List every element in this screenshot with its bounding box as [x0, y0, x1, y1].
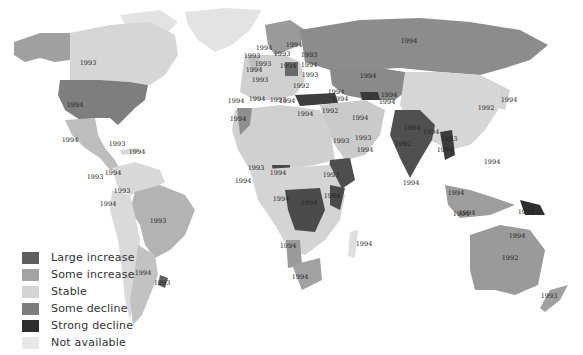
legend-item-large-increase: Large increase	[22, 249, 135, 266]
region-alaska	[14, 33, 70, 62]
year-label: 1993	[301, 51, 318, 59]
year-label: 1994	[280, 62, 297, 70]
legend-label: Not available	[51, 336, 126, 349]
legend-swatch	[22, 320, 39, 332]
year-label: 1994	[484, 158, 501, 166]
year-label: 1994	[501, 96, 518, 104]
legend-label: Strong decline	[51, 319, 133, 332]
year-label: 1994	[249, 95, 266, 103]
year-label: 1993	[244, 52, 261, 60]
region-russia	[300, 18, 548, 75]
year-label: 1994	[67, 101, 84, 109]
legend-swatch	[22, 252, 39, 264]
year-label: 1994	[357, 146, 374, 154]
legend-label: Large increase	[51, 251, 135, 264]
year-label: 1994	[292, 273, 309, 281]
year-label: 1994	[324, 192, 341, 200]
year-label: 1994	[379, 98, 396, 106]
year-label: 1993	[150, 217, 167, 225]
year-label: 1992	[322, 107, 339, 115]
year-label: 1994	[279, 97, 296, 105]
year-label: 1994	[518, 208, 535, 216]
year-label: 1994	[360, 72, 377, 80]
legend-item-some-decline: Some decline	[22, 300, 135, 317]
year-label: 1994	[423, 128, 440, 136]
year-label: 1994	[301, 61, 318, 69]
year-label: 1993	[87, 173, 104, 181]
legend-swatch	[22, 303, 39, 315]
region-uzbek	[360, 92, 380, 100]
year-label: 1994	[135, 269, 152, 277]
year-label: 1994	[509, 232, 526, 240]
year-label: 1993	[355, 134, 372, 142]
year-label: 1994	[228, 97, 245, 105]
year-label: 1994	[105, 169, 122, 177]
year-label: 1993	[333, 137, 350, 145]
year-label: 1994	[62, 136, 79, 144]
year-label: 1994	[297, 110, 314, 118]
year-label: 1994	[352, 114, 369, 122]
region-canada	[70, 22, 178, 85]
year-label: 1993	[441, 135, 458, 143]
legend-item-some-increase: Some increase	[22, 266, 135, 283]
year-label: 1994	[280, 242, 297, 250]
year-label: 1993	[274, 50, 291, 58]
year-label: 1993	[248, 164, 265, 172]
year-label: 1993	[154, 279, 171, 287]
year-label: 1993	[541, 292, 558, 300]
year-label: 1994	[403, 179, 420, 187]
legend-label: Stable	[51, 285, 87, 298]
year-label: 1993	[80, 59, 97, 67]
year-label: 1994	[459, 209, 476, 217]
year-label: 1992	[395, 140, 412, 148]
year-label: 1993	[252, 76, 269, 84]
legend-swatch	[22, 286, 39, 298]
legend-swatch	[22, 269, 39, 281]
year-label: 1994	[246, 66, 263, 74]
year-label: 1994	[332, 95, 349, 103]
year-label: 1993	[114, 187, 131, 195]
year-label: 1994	[401, 37, 418, 45]
year-label: 1994	[129, 148, 146, 156]
year-label: 1994	[448, 189, 465, 197]
year-label: 1994	[235, 177, 252, 185]
year-label: 1994	[270, 169, 287, 177]
year-label: 1993	[302, 71, 319, 79]
legend-label: Some increase	[51, 268, 135, 281]
year-label: 1994	[356, 240, 373, 248]
legend-item-not-available: Not available	[22, 334, 135, 351]
year-label: 1994	[230, 115, 247, 123]
legend: Large increase Some increase Stable Some…	[22, 249, 135, 351]
legend-item-strong-decline: Strong decline	[22, 317, 135, 334]
year-label: 1994	[256, 44, 273, 52]
year-label: 1994	[437, 146, 454, 154]
year-label: 1993	[109, 140, 126, 148]
year-label: 1994	[100, 200, 117, 208]
year-label: 1992	[293, 82, 310, 90]
legend-label: Some decline	[51, 302, 128, 315]
year-label: 1992	[502, 254, 519, 262]
region-greenland	[185, 8, 262, 52]
legend-swatch	[22, 337, 39, 349]
year-label: 1994	[273, 195, 290, 203]
year-label: 1992	[478, 104, 495, 112]
legend-item-stable: Stable	[22, 283, 135, 300]
year-label: 1994	[404, 124, 421, 132]
year-label: 1994	[286, 41, 303, 49]
year-label: 1994	[301, 199, 318, 207]
year-label: 1993	[323, 171, 340, 179]
